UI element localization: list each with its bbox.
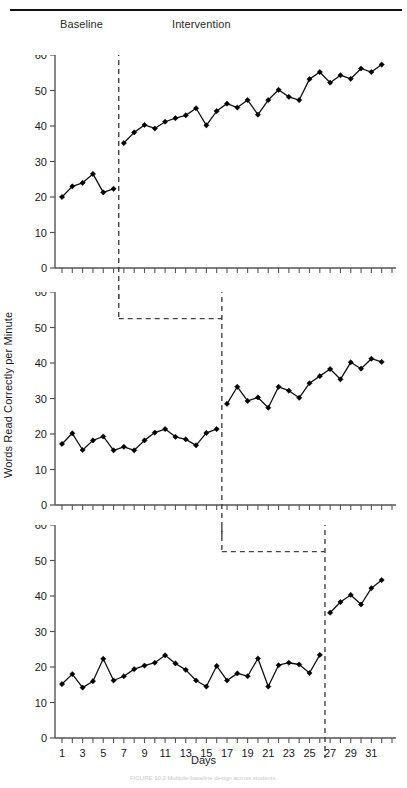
data-point-marker [183,437,188,442]
data-point-marker [276,384,281,389]
data-line-baseline [62,655,320,688]
y-tick-label: 20 [35,428,47,440]
y-tick-label: 0 [41,732,47,744]
figure-caption: FIGURE 10.2 Multiple-baseline design acr… [0,775,407,781]
data-point-marker [317,652,322,657]
chart-panel-1: 0102030405060 [0,55,407,310]
data-point-marker [111,186,116,191]
y-tick-label: 40 [35,357,47,369]
data-point-marker [111,678,116,683]
data-point-marker [276,663,281,668]
data-point-marker [266,684,271,689]
y-tick-label: 20 [35,661,47,673]
y-tick-label: 0 [41,499,47,511]
y-tick-label: 40 [35,120,47,132]
data-point-marker [101,656,106,661]
data-point-marker [173,116,178,121]
data-point-marker [286,660,291,665]
data-line-intervention [330,580,382,613]
y-tick-label: 60 [35,525,47,531]
y-tick-label: 30 [35,626,47,638]
data-line-intervention [227,359,382,408]
y-tick-label: 10 [35,227,47,239]
data-point-marker [204,684,209,689]
y-tick-label: 0 [41,262,47,274]
data-point-marker [101,190,106,195]
y-tick-label: 10 [35,464,47,476]
chart-panel-3: 0102030405060135791113151719212325272931 [0,525,407,780]
y-tick-label: 60 [35,292,47,298]
y-tick-label: 40 [35,590,47,602]
y-tick-label: 50 [35,322,47,334]
y-tick-label: 20 [35,191,47,203]
y-tick-label: 30 [35,156,47,168]
data-point-marker [255,656,260,661]
data-point-marker [121,444,126,449]
data-point-marker [245,674,250,679]
data-line-baseline [62,174,114,197]
multiple-baseline-chart: 0102030405060010203040506001020304050601… [0,0,407,788]
y-tick-label: 50 [35,85,47,97]
x-axis-title: Days [0,754,407,766]
data-point-marker [379,359,384,364]
y-tick-label: 60 [35,55,47,61]
data-point-marker [297,97,302,102]
data-point-marker [214,426,219,431]
y-tick-label: 50 [35,555,47,567]
data-line-baseline [62,429,217,450]
y-tick-label: 30 [35,393,47,405]
data-line-intervention [124,65,382,143]
y-tick-label: 10 [35,697,47,709]
chart-panel-2: 0102030405060 [0,292,407,547]
data-point-marker [142,663,147,668]
